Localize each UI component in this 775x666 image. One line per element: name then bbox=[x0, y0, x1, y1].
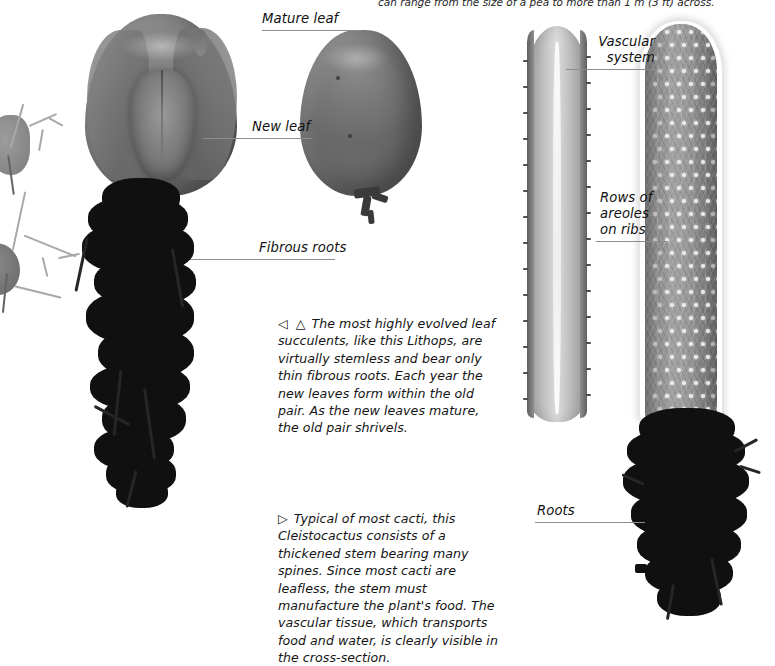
cross-section-vascular-core bbox=[553, 42, 560, 414]
leader-roots bbox=[535, 522, 645, 523]
caption-lithops-text: The most highly evolved leaf succulents,… bbox=[278, 316, 495, 435]
lithops2-spot bbox=[348, 134, 352, 138]
caption-cactus-markers: ▷ bbox=[278, 511, 290, 526]
leader-areoles bbox=[596, 241, 668, 242]
cross-section-skin-right bbox=[580, 30, 587, 418]
leader-mature-leaf bbox=[262, 30, 362, 31]
label-areoles-line3: on ribs bbox=[600, 222, 646, 238]
specimen-cactus-whole bbox=[645, 24, 717, 424]
cactus-stem-body bbox=[645, 24, 717, 424]
cross-section-skin-left bbox=[527, 30, 534, 418]
specimen-cactus-roots bbox=[615, 408, 765, 623]
specimen-lithops-secondary bbox=[300, 30, 422, 196]
label-mature-leaf: Mature leaf bbox=[262, 11, 338, 27]
lithops2-spot bbox=[336, 76, 340, 80]
lithops2-highlight bbox=[322, 43, 390, 73]
leader-new-leaf bbox=[203, 138, 312, 139]
label-areoles-line2: areoles bbox=[600, 206, 649, 222]
specimen-lithops-primary bbox=[85, 14, 237, 196]
lithops-highlight bbox=[121, 32, 200, 61]
lithops-notch bbox=[194, 30, 207, 56]
specimen-lithops-secondary-stem bbox=[352, 188, 392, 224]
specimen-cactus-cross-section bbox=[527, 26, 587, 422]
leader-fibrous-roots bbox=[190, 259, 335, 260]
top-note-text: can range from the size of a pea to more… bbox=[378, 0, 775, 9]
lithops-fissure bbox=[161, 70, 163, 157]
label-areoles-line1: Rows of bbox=[600, 190, 653, 206]
specimen-lithops-fibrous-roots bbox=[72, 178, 217, 508]
label-new-leaf: New leaf bbox=[252, 119, 310, 135]
label-vascular-system-line2: system bbox=[570, 50, 655, 66]
label-roots: Roots bbox=[537, 503, 575, 519]
label-vascular-system-line1: Vascular bbox=[570, 34, 655, 50]
caption-lithops: ◁ △ The most highly evolved leaf succule… bbox=[278, 315, 500, 437]
leader-vascular-system bbox=[566, 69, 655, 70]
caption-lithops-markers: ◁ △ bbox=[278, 316, 307, 331]
label-fibrous-roots: Fibrous roots bbox=[259, 240, 346, 256]
fragment-body bbox=[0, 115, 30, 175]
caption-cactus: ▷ Typical of most cacti, this Cleistocac… bbox=[278, 510, 510, 666]
caption-cactus-text: Typical of most cacti, this Cleistocactu… bbox=[278, 511, 498, 665]
